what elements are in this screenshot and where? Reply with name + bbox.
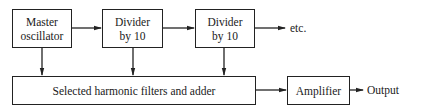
master-oscillator-line1: Master [21, 15, 64, 29]
output-label: Output [367, 83, 399, 97]
divider-1-line1: Divider [115, 15, 150, 29]
amplifier-label: Amplifier [296, 84, 341, 98]
etc-label: etc. [290, 21, 306, 35]
divider-2-line1: Divider [207, 15, 242, 29]
divider-block-2: Divider by 10 [195, 9, 255, 48]
divider-1-line2: by 10 [115, 29, 150, 43]
divider-2-line2: by 10 [207, 29, 242, 43]
amplifier-block: Amplifier [287, 76, 350, 105]
master-oscillator-block: Master oscillator [12, 9, 72, 48]
harmonic-filters-adder-label: Selected harmonic filters and adder [53, 84, 216, 98]
divider-block-1: Divider by 10 [102, 9, 163, 48]
master-oscillator-line2: oscillator [21, 29, 64, 43]
harmonic-filters-adder-block: Selected harmonic filters and adder [12, 76, 256, 105]
